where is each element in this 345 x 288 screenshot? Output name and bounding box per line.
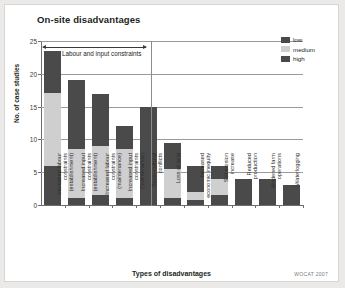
chart-panel: On-site disadvantages No. of case studie… [4, 4, 339, 282]
gridline [41, 74, 303, 75]
y-axis-tick-label: 10 [30, 136, 37, 143]
legend-swatch-high [281, 56, 290, 62]
x-axis-category-label: Reducedproduction [246, 153, 258, 209]
bar-segment-high [116, 126, 133, 149]
annotation-label: Labour and input constraints [62, 50, 141, 57]
x-axis-category-label: Increased inputconstraints(maintenance) [127, 153, 146, 209]
legend-label-high: high [293, 55, 305, 62]
source-credit: WOCAT 2007 [294, 271, 328, 277]
y-axis-tick-mark [38, 107, 41, 108]
x-axis-category-label: Increased inputconstraints(establishment… [80, 153, 99, 209]
x-axis-category-label: Increased labourconstraints(maintenance) [104, 153, 123, 209]
x-axis-category-label: Soil erosionincrease [223, 153, 235, 209]
x-axis-category-label: Loss of land [175, 153, 181, 209]
y-axis-tick-mark [38, 205, 41, 206]
x-axis-category-label: Waterlogging [294, 153, 300, 209]
y-axis-tick-label: 15 [30, 103, 37, 110]
x-axis-tick-mark [184, 205, 185, 208]
legend-swatch-low [281, 37, 290, 43]
y-axis-line [41, 41, 42, 206]
x-axis-tick-mark [303, 205, 304, 208]
x-axis-category-label: Socio-culturalconflicts [151, 153, 163, 209]
y-axis-tick-label: 5 [33, 169, 37, 176]
x-axis-category-label: Increased labourconstraints(establishmen… [56, 153, 75, 209]
y-axis-tick-label: 20 [30, 70, 37, 77]
y-axis-tick-mark [38, 139, 41, 140]
legend-label-low: low [293, 36, 302, 43]
legend-label-medium: medium [293, 46, 315, 53]
bar-segment-high [68, 80, 85, 149]
legend-swatch-medium [281, 46, 290, 52]
y-axis-tick-label: 25 [30, 38, 37, 45]
legend-item-low: low [281, 36, 329, 43]
gridline [41, 41, 303, 42]
chart-title: On-site disadvantages [37, 14, 140, 25]
annotation-arrow [43, 47, 146, 48]
bar-segment-high [92, 94, 109, 146]
x-axis-category-label: Increasedeconomic inequity [199, 153, 211, 209]
chart-legend: low medium high [281, 36, 329, 65]
x-axis-label: Types of disadvantages [5, 270, 338, 277]
x-axis-category-label: Hindered farmoperations [270, 153, 282, 209]
y-axis-tick-mark [38, 172, 41, 173]
bar-segment-high [44, 51, 61, 94]
y-axis-label: No. of case studies [13, 64, 20, 123]
y-axis-tick-mark [38, 41, 41, 42]
legend-item-medium: medium [281, 46, 329, 53]
y-axis-tick-label: 0 [33, 202, 37, 209]
legend-item-high: high [281, 55, 329, 62]
y-axis-tick-mark [38, 74, 41, 75]
